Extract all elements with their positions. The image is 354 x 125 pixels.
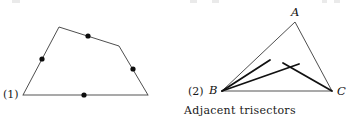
point-top-edge [85, 33, 90, 38]
vertex-label-c: C [337, 86, 346, 98]
trisector-b-upper [222, 60, 270, 91]
figure-1-number-label: (1) [3, 89, 19, 100]
point-bottom-edge [81, 92, 86, 97]
figure-caption: Adjacent trisectors [184, 104, 296, 117]
figure-2-number-label: (2) [188, 86, 204, 97]
figure-caption-container: Adjacent trisectors [0, 105, 354, 116]
vertex-label-a: A [291, 7, 299, 19]
point-right-edge [130, 66, 135, 71]
point-left-edge [39, 56, 44, 61]
vertex-label-b: B [209, 85, 217, 97]
figure-page: (1) (2) A B C Adjacent trisectors [0, 0, 354, 125]
trisector-b-lower [222, 64, 299, 91]
